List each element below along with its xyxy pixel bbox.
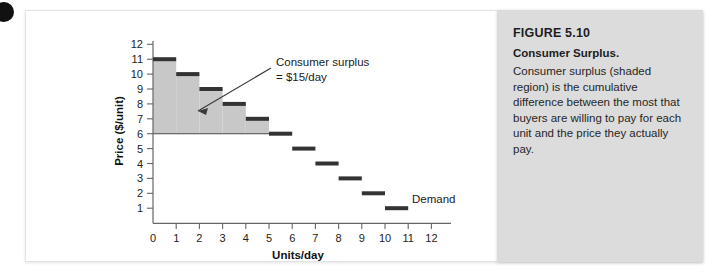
- chart-plot-area: 12 11 10 9 8 7 6 5 4 3 2 1: [26, 11, 523, 263]
- figure-screenshot: 12 11 10 9 8 7 6 5 4 3 2 1: [0, 0, 714, 272]
- consumer-surplus-chart: 12 11 10 9 8 7 6 5 4 3 2 1: [26, 11, 523, 263]
- y-tick-label: 4: [137, 158, 143, 170]
- page-marker-dot: [0, 2, 14, 22]
- demand-curve-label: Demand: [412, 193, 455, 205]
- figure-number: FIGURE 5.10: [513, 26, 689, 40]
- y-tick-label: 10: [131, 68, 143, 80]
- y-tick-label: 6: [137, 128, 143, 140]
- x-tick-label: 9: [359, 232, 365, 244]
- y-tick-label: 3: [137, 172, 143, 184]
- consumer-surplus-annotation-line2: = $15/day: [276, 71, 327, 83]
- figure-subtitle: Consumer Surplus.: [513, 47, 689, 59]
- x-tick-label: 4: [243, 232, 249, 244]
- x-axis-title: Units/day: [272, 249, 324, 261]
- x-tick-label: 3: [220, 232, 226, 244]
- x-tick-label: 8: [336, 232, 342, 244]
- consumer-surplus-annotation-line1: Consumer surplus: [276, 56, 370, 68]
- x-tick-label: 0: [150, 232, 156, 244]
- x-tick-label: 11: [402, 232, 413, 244]
- x-axis-tick-labels: 0 1 2 3 4 5 6 7 8 9 10 11 12: [150, 232, 438, 244]
- x-tick-label: 2: [196, 232, 202, 244]
- figure-caption-body: Consumer surplus (shaded region) is the …: [513, 64, 689, 157]
- y-tick-label: 7: [137, 113, 143, 125]
- y-tick-label: 11: [132, 53, 143, 65]
- figure-caption-panel: FIGURE 5.10 Consumer Surplus. Consumer s…: [497, 10, 703, 262]
- y-axis-title: Price ($/unit): [113, 96, 125, 166]
- y-tick-label: 8: [137, 98, 143, 110]
- y-tick-label: 5: [137, 143, 143, 155]
- y-tick-label: 2: [137, 187, 143, 199]
- y-tick-label: 1: [137, 202, 143, 214]
- x-axis-ticks: [176, 223, 431, 229]
- x-tick-label: 1: [173, 232, 179, 244]
- x-tick-label: 6: [289, 232, 295, 244]
- consumer-surplus-shaded-region: [153, 59, 269, 134]
- y-tick-label: 9: [137, 83, 143, 95]
- x-tick-label: 7: [312, 232, 318, 244]
- y-tick-label: 12: [131, 38, 143, 50]
- y-axis-ticks: [147, 44, 153, 208]
- y-axis-tick-labels: 12 11 10 9 8 7 6 5 4 3 2 1: [131, 38, 143, 214]
- x-tick-label: 10: [379, 232, 391, 244]
- x-tick-label: 12: [425, 232, 437, 244]
- x-tick-label: 5: [266, 232, 272, 244]
